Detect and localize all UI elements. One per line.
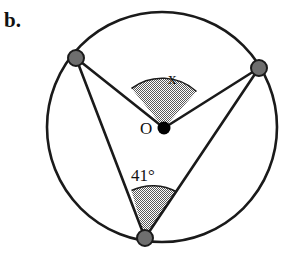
- geometry-figure: b. O x 41°: [0, 0, 288, 259]
- vertex-dot-upper-left: [68, 50, 84, 66]
- inscribed-angle-sector-shading: [132, 186, 178, 238]
- vertex-dot-bottom: [137, 230, 153, 246]
- part-label: b.: [4, 10, 21, 31]
- inscribed-angle-label: 41°: [131, 167, 155, 184]
- center-point-dot: [158, 122, 171, 135]
- central-angle-label: x: [168, 70, 177, 87]
- vertex-dot-upper-right: [251, 60, 267, 76]
- center-point-label: O: [140, 120, 152, 137]
